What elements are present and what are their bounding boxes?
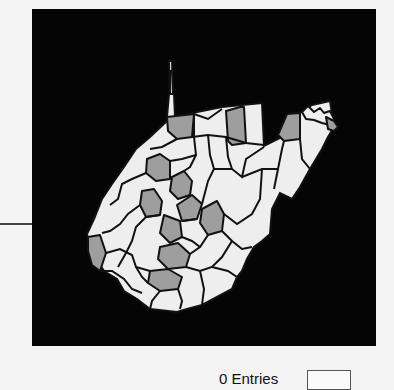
legend: 0 Entries: [0, 366, 394, 381]
county-brooke-ohio: [167, 94, 175, 117]
legend-swatch: [307, 370, 351, 390]
state-outline: [87, 61, 334, 312]
west-virginia-county-map: [32, 9, 376, 346]
county-morgan-shaded: [278, 113, 300, 141]
map-frame: [32, 9, 376, 346]
county-berkeley-shaded: [326, 117, 338, 131]
leader-line: [0, 223, 33, 225]
county-wood-shaded: [146, 154, 170, 181]
county-hancock: [170, 71, 173, 94]
legend-label: 0 Entries: [219, 371, 278, 386]
